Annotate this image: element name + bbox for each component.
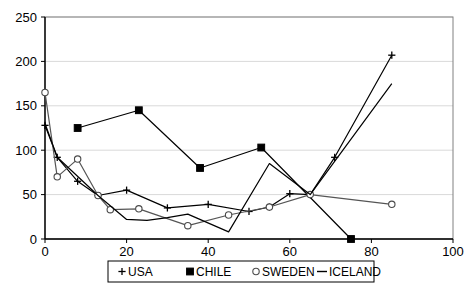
data-point-marker: [136, 206, 142, 212]
y-tick-label: 150: [15, 98, 37, 113]
data-point-marker: [266, 204, 272, 210]
data-point-marker: [258, 144, 265, 151]
legend-item-label: CHILE: [196, 265, 231, 279]
legend-item-label: USA: [128, 265, 153, 279]
data-point-marker: [388, 52, 395, 59]
y-tick-label: 50: [23, 187, 37, 202]
data-point-marker: [164, 204, 171, 211]
data-point-marker: [197, 165, 204, 172]
y-tick-label: 200: [15, 54, 37, 69]
data-point-marker: [348, 236, 355, 243]
legend-item-label: SWEDEN: [262, 265, 315, 279]
data-point-marker: [54, 174, 60, 180]
series-chile: [74, 107, 354, 243]
square-marker: [187, 268, 194, 275]
legend-item-sweden[interactable]: SWEDEN: [253, 265, 315, 279]
series-usa: [41, 52, 395, 215]
y-tick-label: 100: [15, 143, 37, 158]
y-tick-label: 250: [15, 10, 37, 25]
data-point-marker: [286, 190, 293, 197]
x-tick-label: 20: [119, 244, 133, 259]
x-tick-label: 40: [201, 244, 215, 259]
circle-marker: [253, 268, 259, 274]
x-tick-label: 100: [442, 244, 464, 259]
chart-canvas: 050100150200250020406080100USACHILESWEDE…: [0, 0, 474, 293]
x-tick-label: 60: [283, 244, 297, 259]
data-point-marker: [41, 122, 48, 129]
y-tick-label: 0: [30, 232, 37, 247]
legend: USACHILESWEDENICELAND: [108, 261, 381, 282]
series-line: [78, 110, 351, 239]
legend-item-label: ICELAND: [329, 265, 381, 279]
x-tick-label: 80: [364, 244, 378, 259]
line-chart: 050100150200250020406080100USACHILESWEDE…: [0, 0, 474, 293]
data-point-marker: [42, 89, 48, 95]
data-point-marker: [185, 222, 191, 228]
data-point-marker: [74, 156, 80, 162]
data-point-marker: [74, 125, 81, 132]
data-point-marker: [135, 107, 142, 114]
series-sweden: [42, 89, 395, 229]
data-point-marker: [205, 201, 212, 208]
data-point-marker: [123, 187, 130, 194]
data-point-marker: [225, 212, 231, 218]
x-tick-label: 0: [41, 244, 48, 259]
series-line: [45, 55, 392, 211]
data-point-marker: [389, 201, 395, 207]
